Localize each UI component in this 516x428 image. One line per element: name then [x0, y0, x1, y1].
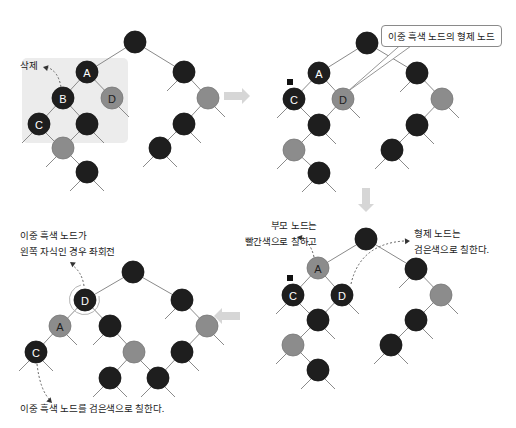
nil-leaf-stub	[165, 308, 176, 319]
nil-leaf-stub	[299, 303, 310, 314]
nil-leaf-stub	[301, 378, 312, 389]
tree-node-c: C	[25, 341, 47, 363]
nil-leaf-stub	[190, 132, 201, 143]
svg-text:D: D	[108, 93, 116, 105]
step-arrow-right-icon	[224, 88, 250, 104]
svg-text:C: C	[290, 94, 298, 106]
red-black-tree-deletion-diagram: ABDCACDACDDAC 삭제 이중 흑색 노드의 형제 노드 부모 노드는 …	[0, 0, 516, 428]
nil-leaf-stub	[116, 386, 127, 397]
nil-leaf-stub	[302, 181, 313, 192]
nil-leaf-stub	[66, 334, 77, 345]
nil-leaf-stub	[277, 158, 288, 169]
tree-node	[355, 228, 377, 250]
label-parent-paint-red-line1: 부모 노드는	[225, 218, 317, 234]
tree-node-d: D	[332, 88, 354, 110]
svg-text:B: B	[59, 93, 66, 105]
tree-node	[173, 61, 195, 83]
label-parent-paint-red-line2: 빨간색으로 칠하고	[225, 234, 317, 250]
label-parent-paint-red: 부모 노드는 빨간색으로 칠하고	[225, 218, 317, 250]
nil-leaf-stub	[143, 156, 154, 167]
nil-leaf-stub	[140, 360, 151, 371]
nil-leaf-stub	[19, 360, 30, 371]
tree-node	[356, 32, 378, 54]
nil-leaf-stub	[325, 181, 336, 192]
tree-node	[196, 315, 218, 337]
nil-leaf-stub	[166, 156, 177, 167]
tree-node-d: D	[331, 284, 353, 306]
step-arrow-down-icon	[358, 188, 374, 212]
tree-node	[171, 289, 193, 311]
tree-node	[197, 87, 219, 109]
label-delete: 삭제	[20, 58, 37, 74]
nil-leaf-stub	[422, 328, 433, 339]
tree-node	[173, 113, 195, 135]
step-arrow-left-icon	[214, 308, 240, 324]
nil-leaf-stub	[164, 386, 175, 397]
tree-node	[76, 113, 98, 135]
nil-leaf-stub	[46, 156, 57, 167]
tree-node-d: D	[101, 87, 123, 109]
tree-diagram-canvas: ABDCACDACDDAC	[0, 0, 516, 428]
svg-text:A: A	[315, 68, 323, 80]
tree-node	[308, 162, 330, 184]
double-black-marker-icon	[287, 79, 293, 85]
nil-leaf-stub	[447, 303, 458, 314]
nil-leaf-stub	[398, 158, 409, 169]
rotate-arrow-icon	[70, 262, 84, 286]
recolor-arrow-icon	[37, 364, 52, 403]
nil-leaf-stub	[399, 277, 410, 288]
label-rotate-left-line2: 왼쪽 자식인 경우 좌회전	[20, 244, 115, 260]
tree-node-b: B	[52, 87, 74, 109]
label-rotate-left-line1: 이중 흑색 노드가	[20, 228, 115, 244]
nil-leaf-stub	[324, 328, 335, 339]
panel-step4: DAC	[19, 261, 224, 397]
nil-leaf-stub	[348, 303, 359, 314]
tree-node	[431, 88, 453, 110]
nil-leaf-stub	[325, 133, 336, 144]
tree-node-c: C	[283, 88, 305, 110]
tree-node-a: A	[307, 257, 329, 279]
tree-node	[122, 261, 144, 283]
label-recolor-double-black: 이중 흑색 노드를 검은색으로 칠한다.	[20, 401, 164, 417]
nil-leaf-stub	[276, 353, 287, 364]
svg-text:D: D	[81, 295, 89, 307]
tree-node-c: C	[28, 113, 50, 135]
panel-step2: ACD	[277, 32, 459, 192]
svg-text:D: D	[338, 290, 346, 302]
callout-sibling-of-double-black: 이중 흑색 노드의 형제 노드	[381, 25, 502, 47]
tree-node	[147, 367, 169, 389]
tree-node-a: A	[308, 62, 330, 84]
nil-leaf-stub	[93, 334, 104, 345]
nil-leaf-stub	[349, 107, 360, 118]
tree-node	[99, 315, 121, 337]
tree-node	[99, 367, 121, 389]
svg-text:C: C	[32, 347, 40, 359]
tree-node	[76, 161, 98, 183]
tree-node	[405, 258, 427, 280]
nil-leaf-stub	[70, 180, 81, 191]
tree-node	[52, 137, 74, 159]
label-sibling-paint-black: 형제 노드는 검은색으로 칠한다.	[414, 226, 489, 258]
svg-text:A: A	[83, 67, 91, 79]
tree-node	[308, 114, 330, 136]
double-black-marker-icon	[287, 275, 293, 281]
tree-node-a: A	[49, 315, 71, 337]
tree-node	[307, 309, 329, 331]
tree-node	[380, 334, 402, 356]
label-sibling-paint-black-line2: 검은색으로 칠한다.	[414, 242, 489, 258]
tree-node	[406, 62, 428, 84]
tree-node-a: A	[76, 61, 98, 83]
nil-leaf-stub	[448, 107, 459, 118]
nil-leaf-stub	[42, 360, 53, 371]
panel-step1: ABDC	[22, 31, 225, 191]
tree-node	[283, 139, 305, 161]
nil-leaf-stub	[375, 158, 386, 169]
tree-node	[430, 284, 452, 306]
svg-text:A: A	[314, 263, 322, 275]
nil-leaf-stub	[400, 81, 411, 92]
label-rotate-left: 이중 흑색 노드가 왼쪽 자식인 경우 좌회전	[20, 228, 115, 260]
svg-text:A: A	[56, 321, 64, 333]
tree-node	[124, 31, 146, 53]
tree-node	[405, 309, 427, 331]
tree-node-c: C	[282, 284, 304, 306]
